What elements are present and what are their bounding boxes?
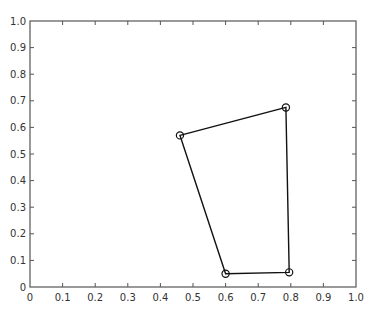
y-tick-label: 0.5 xyxy=(10,149,26,160)
chart-canvas: 00.10.20.30.40.50.60.70.80.91.0 00.10.20… xyxy=(0,0,374,316)
x-tick-label: 0.3 xyxy=(120,292,136,303)
y-axis-ticks xyxy=(30,48,356,261)
y-tick-label: 0 xyxy=(20,282,26,293)
y-tick-label: 0.6 xyxy=(10,122,26,133)
plot-border xyxy=(30,21,356,287)
x-tick-label: 0 xyxy=(27,292,33,303)
y-tick-label: 1.0 xyxy=(10,16,26,27)
y-tick-label: 0.8 xyxy=(10,69,26,80)
x-tick-label: 0.4 xyxy=(152,292,168,303)
y-tick-label: 0.3 xyxy=(10,202,26,213)
x-tick-label: 0.2 xyxy=(87,292,103,303)
plot-series xyxy=(176,104,292,277)
x-tick-label: 0.1 xyxy=(55,292,71,303)
x-tick-label: 0.9 xyxy=(315,292,331,303)
y-axis-tick-labels: 00.10.20.30.40.50.60.70.80.91.0 xyxy=(10,16,26,293)
x-tick-label: 0.6 xyxy=(218,292,234,303)
y-tick-label: 0.7 xyxy=(10,95,26,106)
y-tick-label: 0.2 xyxy=(10,228,26,239)
series-line xyxy=(180,107,289,273)
chart: 00.10.20.30.40.50.60.70.80.91.0 00.10.20… xyxy=(0,0,374,316)
y-tick-label: 0.9 xyxy=(10,42,26,53)
x-axis-ticks xyxy=(63,21,324,287)
axes-frame xyxy=(30,21,356,287)
x-tick-label: 0.7 xyxy=(250,292,266,303)
x-axis-tick-labels: 00.10.20.30.40.50.60.70.80.91.0 xyxy=(27,292,364,303)
x-tick-label: 0.5 xyxy=(185,292,201,303)
y-tick-label: 0.4 xyxy=(10,175,26,186)
x-tick-label: 0.8 xyxy=(283,292,299,303)
x-tick-label: 1.0 xyxy=(348,292,364,303)
y-tick-label: 0.1 xyxy=(10,255,26,266)
